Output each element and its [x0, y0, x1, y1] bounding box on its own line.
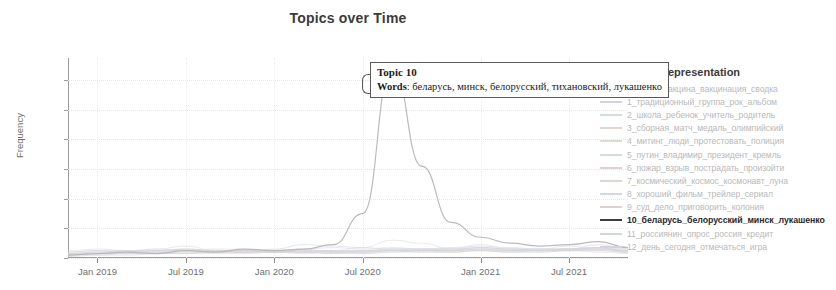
legend-color-swatch: [600, 114, 622, 116]
legend-item-label: 7_космический_космос_космонавт_луна: [627, 176, 788, 186]
legend-item-label: 3_сборная_матч_медаль_олимпийский: [627, 123, 783, 133]
legend-item[interactable]: 11_россиянин_опрос_россия_кредит: [600, 227, 836, 240]
legend-item-list: 0_вирус_вакцина_вакцинация_сводка1_тради…: [600, 82, 836, 253]
legend-item[interactable]: 4_митинг_люди_протестовать_полиция: [600, 135, 836, 148]
legend-item-label: 6_пожар_взрыв_пострадать_произойти: [627, 163, 784, 173]
legend-item-label: 8_хороший_фильм_трейлер_сериал: [627, 189, 773, 199]
page-title: Topics over Time: [0, 10, 766, 26]
legend-color-swatch: [600, 127, 622, 129]
legend-color-swatch: [600, 193, 622, 195]
legend-title: Representation: [660, 66, 836, 78]
legend-color-swatch: [600, 206, 622, 208]
legend-item-label: 2_школа_ребенок_учитель_родитель: [627, 110, 775, 120]
y-tick-mark: [64, 258, 68, 259]
legend-item-label: 10_беларусь_белорусский_минск_лукашенко: [627, 215, 825, 225]
legend-item[interactable]: 7_космический_космос_космонавт_луна: [600, 174, 836, 187]
legend-color-swatch: [600, 140, 622, 142]
legend-item[interactable]: 6_пожар_взрыв_пострадать_произойти: [600, 161, 836, 174]
x-tick-label: Jul 2019: [168, 266, 204, 277]
x-tick-mark: [569, 258, 570, 263]
tooltip-words: Words: беларусь, минск, белорусский, тих…: [377, 80, 662, 93]
x-tick-label: Jan 2019: [78, 266, 117, 277]
legend-color-swatch: [600, 219, 622, 221]
x-tick-mark: [363, 258, 364, 263]
hover-tooltip: Topic 10 Words: беларусь, минск, белорус…: [370, 62, 669, 98]
legend-item[interactable]: 10_беларусь_белорусский_минск_лукашенко: [600, 214, 836, 227]
legend-item[interactable]: 9_суд_дело_приговорить_колония: [600, 201, 836, 214]
legend-item-label: 9_суд_дело_приговорить_колония: [627, 202, 764, 212]
legend-item-label: 12_день_сегодня_отмечаться_игра: [627, 242, 767, 252]
x-tick-label: Jan 2021: [461, 266, 500, 277]
x-tick-label: Jan 2020: [255, 266, 294, 277]
legend-item-label: 5_путин_владимир_президент_кремль: [627, 150, 781, 160]
tooltip-topic-title: Topic 10: [377, 66, 662, 80]
legend-item[interactable]: 12_день_сегодня_отмечаться_игра: [600, 240, 836, 253]
legend-item[interactable]: 3_сборная_матч_медаль_олимпийский: [600, 122, 836, 135]
gridline: [68, 258, 628, 259]
legend-item-label: 4_митинг_люди_протестовать_полиция: [627, 136, 784, 146]
legend-color-swatch: [600, 154, 622, 156]
legend-item[interactable]: 8_хороший_фильм_трейлер_сериал: [600, 188, 836, 201]
legend-color-swatch: [600, 246, 622, 248]
y-axis-title: Frequency: [14, 113, 25, 158]
x-tick-mark: [186, 258, 187, 263]
legend-color-swatch: [600, 233, 622, 235]
x-tick-mark: [481, 258, 482, 263]
tooltip-words-value: : беларусь, минск, белорусский, тихановс…: [407, 81, 662, 92]
x-tick-label: Jul 2020: [345, 266, 381, 277]
legend-item[interactable]: 5_путин_владимир_президент_кремль: [600, 148, 836, 161]
legend-item-label: 1_традиционный_группа_рок_альбом: [627, 97, 777, 107]
chart-page: Topics over Time Frequency 0204060801001…: [0, 0, 836, 290]
legend-color-swatch: [600, 180, 622, 182]
legend-color-swatch: [600, 167, 622, 169]
tooltip-words-label: Words: [377, 81, 407, 92]
x-tick-label: Jul 2021: [551, 266, 587, 277]
legend-color-swatch: [600, 101, 622, 103]
x-tick-mark: [97, 258, 98, 263]
x-tick-mark: [274, 258, 275, 263]
legend-item-label: 11_россиянин_опрос_россия_кредит: [627, 229, 773, 239]
legend-item[interactable]: 2_школа_ребенок_учитель_родитель: [600, 108, 836, 121]
